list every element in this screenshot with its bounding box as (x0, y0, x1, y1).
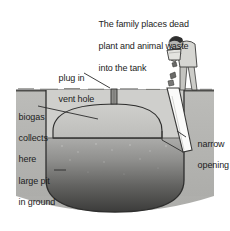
caption-text: The family places dead plant and animal … (89, 8, 189, 85)
label-vent-line-1: plug in (59, 73, 85, 83)
biogas-digester-figure: The family places dead plant and animal … (0, 0, 230, 231)
label-large-pit: large pit in ground (9, 165, 55, 218)
vent-plug (111, 89, 117, 104)
label-biogas-line-3: here (19, 154, 37, 164)
caption-line-1: The family places dead (98, 19, 188, 29)
slurry-fill (46, 138, 184, 212)
caption-line-3: into the tank (99, 63, 147, 73)
label-narrow-opening: narrow opening (188, 128, 229, 181)
label-vent-hole: plug in vent hole (49, 62, 94, 115)
label-vent-line-2: vent hole (59, 94, 95, 104)
label-opening-line-1: narrow (198, 139, 225, 149)
label-pit-line-1: large pit (19, 176, 50, 186)
label-biogas-line-1: biogas (19, 112, 45, 122)
label-biogas-line-2: collects (19, 133, 48, 143)
caption-line-2: plant and animal waste (99, 41, 189, 51)
label-biogas: biogas collects here (9, 101, 48, 175)
label-pit-line-2: in ground (19, 197, 56, 207)
label-opening-line-2: opening (198, 160, 229, 170)
